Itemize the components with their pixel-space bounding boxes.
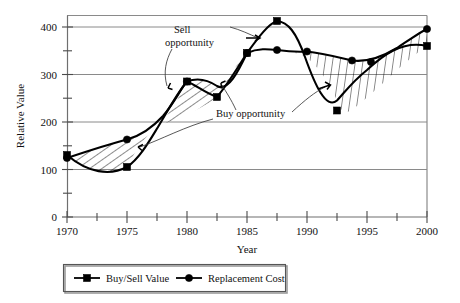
chart-legend: Buy/Sell Value Replacement Cost [64,265,288,294]
data-point-square-1970 [64,152,71,159]
y-tick-label-200: 200 [41,116,58,128]
annotation-sell-opportunity-line1: Sell [174,24,190,35]
legend-label-replacement-cost: Replacement Cost [208,273,285,284]
y-tick-label-0: 0 [52,211,58,223]
x-axis-title: Year [237,243,258,255]
annotation-buy-leader-1982 [222,85,236,110]
x-tick-label-1995: 1995 [356,225,379,237]
x-tick-label-1975: 1975 [116,225,139,237]
x-axis-tick-labels: 1970 1975 1980 1985 1990 1995 2000 [56,225,439,237]
annotation-sell-opportunity-line2: opportunity [165,37,215,48]
x-tick-label-1970: 1970 [56,225,79,237]
annotation-buy-leader-1970s [140,119,213,147]
y-tick-label-300: 300 [41,69,58,81]
data-point-square-1980 [184,78,191,85]
chart-page: 400 300 200 100 0 1970 1975 1980 [0,0,460,303]
annotation-sell-arrow-left [168,83,173,90]
data-point-circle-1987 [273,46,280,53]
annotation-buy-arrow-1990s [318,82,331,90]
y-tick-label-100: 100 [41,164,58,176]
x-tick-label-1990: 1990 [296,225,319,237]
data-point-circle-1994 [348,57,355,64]
x-tick-label-1985: 1985 [236,225,259,237]
legend-label-buy-sell-value: Buy/Sell Value [106,273,169,284]
data-point-square-1985 [244,50,251,57]
annotation-sell-leader-line [165,49,172,86]
series-line-replacement-cost [67,29,427,158]
y-tick-label-400: 400 [41,21,58,33]
data-point-square-2000 [424,43,431,50]
annotation-buy-opportunity-label: Buy opportunity [216,108,286,119]
data-point-square-1974 [124,164,131,171]
legend-marker-circle [185,274,192,281]
data-point-circle-1975 [123,136,130,143]
data-point-circle-1990 [303,48,310,55]
legend-entry-replacement-cost[interactable]: Replacement Cost [176,273,285,284]
legend-entry-buy-sell-value[interactable]: Buy/Sell Value [74,273,169,284]
data-point-square-1987 [274,18,281,25]
data-point-square-1982 [214,94,221,101]
legend-marker-square [84,275,91,282]
y-axis-tick-labels: 400 300 200 100 0 [41,21,58,223]
data-point-square-1992 [334,107,341,114]
data-point-circle-2000 [423,25,430,32]
x-tick-label-1980: 1980 [176,225,199,237]
relative-value-line-chart: 400 300 200 100 0 1970 1975 1980 [0,0,460,303]
y-axis-title: Relative Value [14,84,26,148]
annotation-sell-leader-line-2 [230,27,258,38]
data-point-circle-1995 [367,58,374,65]
x-tick-label-2000: 2000 [416,225,439,237]
